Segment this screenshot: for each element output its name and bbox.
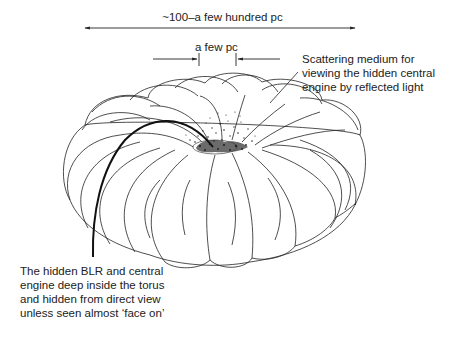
hidden-blr-annotation: The hidden BLR and central engine deep i… bbox=[20, 264, 165, 320]
inner-dimension-label: a few pc bbox=[195, 40, 238, 54]
annotation-line: viewing the hidden central bbox=[302, 66, 435, 80]
annotation-line: unless seen almost ‘face on’ bbox=[20, 306, 165, 320]
inner-dimension-marker bbox=[153, 53, 280, 66]
torus bbox=[63, 73, 365, 265]
annotation-line: engine deep inside the torus bbox=[20, 278, 165, 292]
annotation-line: The hidden BLR and central bbox=[20, 264, 165, 278]
annotation-line: Scattering medium for bbox=[302, 52, 435, 66]
scattering-medium-annotation: Scattering medium for viewing the hidden… bbox=[302, 52, 435, 94]
outer-dimension-label: ~100–a few hundred pc bbox=[0, 10, 457, 24]
annotation-line: and hidden from direct view bbox=[20, 292, 165, 306]
annotation-line: engine by reflected light bbox=[302, 80, 435, 94]
